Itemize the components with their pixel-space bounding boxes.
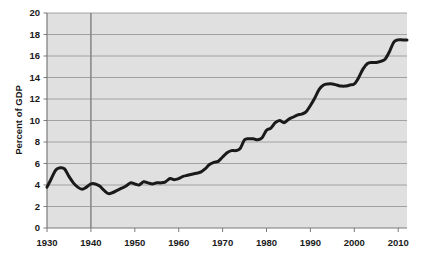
y-tick-label-4: 4	[35, 179, 41, 190]
y-tick-label-16: 16	[29, 50, 40, 61]
x-tick-label-1990: 1990	[300, 237, 321, 248]
y-tick-label-8: 8	[35, 136, 40, 147]
y-tick-label-0: 0	[35, 222, 40, 233]
y-tick-label-12: 12	[29, 93, 40, 104]
x-tick-label-1930: 1930	[36, 237, 57, 248]
y-tick-label-14: 14	[29, 72, 40, 83]
y-tick-label-10: 10	[29, 115, 40, 126]
gdp-line-chart: 02468101214161820 1930194019501960197019…	[0, 0, 421, 263]
x-tick-label-1980: 1980	[256, 237, 277, 248]
y-tick-label-6: 6	[35, 158, 40, 169]
x-tick-label-1950: 1950	[124, 237, 145, 248]
x-axis-tick-labels: 193019401950196019701980199020002010	[36, 237, 408, 248]
x-tick-label-2010: 2010	[388, 237, 409, 248]
x-tick-label-1960: 1960	[168, 237, 189, 248]
chart-container: 02468101214161820 1930194019501960197019…	[0, 0, 421, 263]
x-tick-label-1970: 1970	[212, 237, 233, 248]
y-tick-label-18: 18	[29, 29, 40, 40]
y-tick-label-20: 20	[29, 7, 40, 18]
y-axis-title: Percent of GDP	[13, 84, 24, 154]
x-tick-label-2000: 2000	[344, 237, 365, 248]
x-tick-label-1940: 1940	[80, 237, 101, 248]
y-tick-label-2: 2	[35, 201, 40, 212]
